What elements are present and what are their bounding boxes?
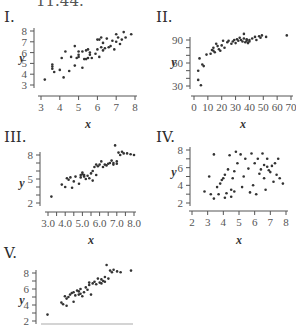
data-point <box>90 293 93 296</box>
data-point <box>237 40 240 43</box>
x-tick-label: 3.0 <box>41 217 55 229</box>
data-point <box>275 173 278 176</box>
data-point <box>247 167 250 170</box>
data-point <box>263 177 266 180</box>
data-point <box>111 39 114 42</box>
data-point <box>222 177 225 180</box>
data-point <box>107 277 110 280</box>
x-tick-label: 8 <box>132 101 138 113</box>
data-point <box>97 277 100 280</box>
data-point <box>224 196 227 199</box>
scatter-plot-4: 24682345678xy <box>169 144 289 247</box>
data-point <box>102 42 105 45</box>
data-point <box>64 50 67 53</box>
data-point <box>124 36 127 39</box>
data-point <box>116 163 119 166</box>
data-point <box>91 179 94 182</box>
x-tick-label: 10 <box>202 101 214 113</box>
data-point <box>263 164 266 167</box>
x-tick-label: 8.0 <box>127 217 141 229</box>
data-point <box>228 154 231 157</box>
data-point <box>91 57 94 60</box>
data-point <box>106 37 109 40</box>
data-point <box>265 36 268 39</box>
x-tick-label: 4.0 <box>58 217 72 229</box>
data-point <box>230 43 233 46</box>
data-point <box>233 39 236 42</box>
data-point <box>236 162 239 165</box>
x-tick-label: 8 <box>283 216 289 228</box>
data-point <box>254 36 257 39</box>
data-point <box>234 42 237 45</box>
data-point <box>91 170 94 173</box>
data-point <box>227 168 230 171</box>
data-point <box>79 176 82 179</box>
data-point <box>98 56 101 59</box>
data-point <box>79 288 82 291</box>
data-point <box>216 186 219 189</box>
data-point <box>219 182 222 185</box>
data-point <box>95 174 98 177</box>
data-point <box>87 48 90 51</box>
data-point <box>104 47 107 50</box>
x-axis-title: x <box>235 233 242 247</box>
data-point <box>225 192 228 195</box>
y-tick-label: 2 <box>178 197 184 209</box>
data-point <box>117 151 120 154</box>
scatter-plots-figure: 345678345678xy306090010203040506070xy258… <box>0 0 296 326</box>
data-point <box>86 289 89 292</box>
data-point <box>114 144 117 147</box>
x-tick-label: 7.0 <box>110 217 124 229</box>
data-point <box>122 31 125 34</box>
y-tick-label: 8 <box>22 25 28 37</box>
data-point <box>74 175 77 178</box>
data-point <box>119 271 122 274</box>
x-tick-label: 2 <box>189 216 195 228</box>
data-point <box>51 63 54 66</box>
data-point <box>96 48 99 51</box>
data-point <box>269 171 272 174</box>
data-point <box>81 50 84 53</box>
data-point <box>88 177 91 180</box>
data-point <box>74 45 77 48</box>
data-point <box>68 70 71 73</box>
y-tick-label: 5 <box>28 173 34 185</box>
data-point <box>258 173 261 176</box>
data-point <box>242 175 245 178</box>
data-point <box>202 65 205 68</box>
x-tick-label: 6 <box>252 216 258 228</box>
data-point <box>245 40 248 43</box>
data-point <box>216 45 219 48</box>
data-point <box>74 294 77 297</box>
data-point <box>213 153 216 156</box>
data-point <box>231 177 234 180</box>
data-point <box>50 195 53 198</box>
y-axis-title: y <box>17 176 25 190</box>
x-tick-label: 20 <box>216 101 228 113</box>
data-point <box>93 281 96 284</box>
data-point <box>95 283 98 286</box>
data-point <box>222 40 225 43</box>
x-tick-label: 6 <box>95 101 101 113</box>
data-point <box>112 162 115 165</box>
data-point <box>205 53 208 56</box>
data-point <box>72 301 75 304</box>
scatter-plot-2: 306090010203040506070xy <box>169 33 296 131</box>
x-tick-label: 30 <box>230 101 242 113</box>
scatter-plot-1: 345678345678xy <box>17 25 138 131</box>
y-axis-title: y <box>17 51 25 65</box>
data-point <box>215 43 218 46</box>
data-point <box>197 69 200 72</box>
data-point <box>88 281 91 284</box>
data-point <box>62 76 65 79</box>
data-point <box>250 152 253 155</box>
data-point <box>255 39 258 42</box>
data-point <box>100 36 103 39</box>
data-point <box>116 160 119 163</box>
data-point <box>85 178 88 181</box>
data-point <box>71 187 74 190</box>
data-point <box>122 152 125 155</box>
data-point <box>244 158 247 161</box>
data-point <box>129 153 132 156</box>
data-point <box>79 293 82 296</box>
